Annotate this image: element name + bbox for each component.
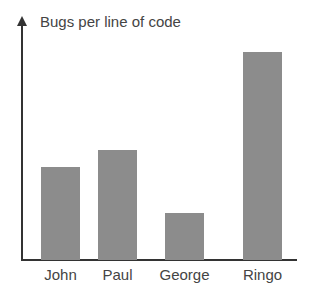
bar-ringo xyxy=(243,52,282,260)
bar-chart: Bugs per line of code John Paul George R… xyxy=(0,0,310,301)
x-label-george: George xyxy=(145,266,225,283)
x-label-ringo: Ringo xyxy=(223,266,303,283)
bar-paul xyxy=(98,150,137,260)
y-axis xyxy=(21,24,23,261)
bar-john xyxy=(41,167,80,260)
chart-title: Bugs per line of code xyxy=(40,13,181,30)
bar-george xyxy=(165,213,204,260)
